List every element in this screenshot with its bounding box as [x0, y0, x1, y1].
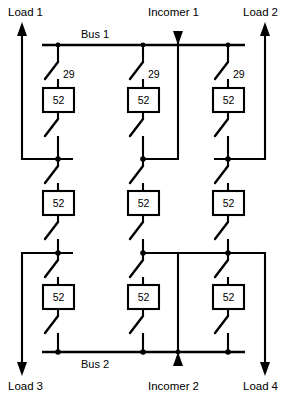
center-mid-breaker-52-label: 52: [138, 197, 150, 209]
load-2-label-lead: Load: [243, 6, 269, 18]
right-top-isolator-29-blade: [215, 62, 228, 79]
svg-text:Load1: Load1: [8, 6, 43, 18]
center-top-isolator-lower-blade: [130, 119, 143, 136]
center-isolator-29-label: 29: [148, 68, 160, 80]
center-bot-isolator-upper-blade: [130, 260, 143, 277]
load-4-arrow-icon: [260, 362, 270, 376]
right-top-breaker-52-label: 52: [223, 94, 235, 106]
center-mid-isolator-upper-blade: [130, 166, 143, 183]
left-column-middle: 52: [43, 159, 74, 256]
left-mid-isolator-lower-blade: [45, 222, 58, 239]
svg-text:Incomer1: Incomer1: [148, 6, 199, 18]
bus-1-label-lead: Bus: [81, 28, 100, 40]
bus-2-label: Bus2: [81, 358, 109, 370]
load-1-label: Load1: [8, 6, 43, 18]
right-bot-isolator-upper-blade: [215, 260, 228, 277]
bus-1-label: Bus1: [81, 28, 109, 40]
left-top-isolator-29-blade: [45, 62, 58, 79]
bus-2-label-lead: Bus: [81, 358, 100, 370]
svg-text:Incomer2: Incomer2: [148, 380, 199, 392]
load-4-label-lead: Load: [243, 380, 269, 392]
left-mid-breaker-52-label: 52: [53, 197, 65, 209]
load-1-label-lead: Load: [8, 6, 34, 18]
right-bot-isolator-lower-blade: [215, 316, 228, 333]
center-bot-isolator-lower-blade: [130, 316, 143, 333]
load-3-arrow-icon: [17, 362, 27, 376]
bus-2-label-num: 2: [103, 358, 109, 370]
load-3-feeder: [17, 252, 73, 376]
load-4-label-num: 4: [272, 380, 279, 392]
svg-text:Load3: Load3: [8, 380, 43, 392]
incomer-1-label-num: 1: [193, 6, 199, 18]
left-column-top: 52: [43, 45, 74, 162]
incomer-1-label-lead: Incomer: [148, 6, 190, 18]
left-column-bottom: 52: [43, 253, 74, 355]
load-2-label: Load2: [243, 6, 278, 18]
load-1-label-num: 1: [37, 6, 43, 18]
right-bot-breaker-52-label: 52: [223, 291, 235, 303]
load-1-arrow-icon: [17, 22, 27, 36]
right-mid-breaker-52-label: 52: [223, 197, 235, 209]
left-top-isolator-lower-blade: [45, 119, 58, 136]
left-bot-breaker-52-label: 52: [53, 291, 65, 303]
load-3-label-lead: Load: [8, 380, 34, 392]
center-column-middle: 52: [128, 159, 159, 256]
left-bot-isolator-lower-blade: [45, 316, 58, 333]
svg-text:Bus2: Bus2: [81, 358, 109, 370]
svg-text:Bus1: Bus1: [81, 28, 109, 40]
incomer-2-feeder: [173, 253, 183, 366]
center-top-breaker-52-label: 52: [138, 94, 150, 106]
load-4-feeder: [214, 252, 270, 376]
bus-1-label-num: 1: [103, 28, 109, 40]
incomer-2-label-lead: Incomer: [148, 380, 190, 392]
right-column-top: 52: [213, 45, 244, 162]
load-2-label-num: 2: [272, 6, 278, 18]
svg-text:Load4: Load4: [243, 380, 279, 392]
bus-2-node-incomer: [176, 350, 181, 355]
left-bot-isolator-upper-blade: [45, 260, 58, 277]
right-isolator-29-label: 29: [233, 68, 245, 80]
left-mid-isolator-upper-blade: [45, 166, 58, 183]
load-2-arrow-icon: [260, 22, 270, 36]
center-mid-isolator-lower-blade: [130, 222, 143, 239]
right-column-bottom: 52: [213, 253, 244, 355]
left-top-breaker-52-label: 52: [53, 94, 65, 106]
center-column-top: 52: [128, 45, 159, 162]
right-mid-isolator-lower-blade: [215, 222, 228, 239]
center-top-isolator-29-blade: [130, 62, 143, 79]
incomer-2-label-num: 2: [193, 380, 199, 392]
center-bot-breaker-52-label: 52: [138, 291, 150, 303]
incomer-2-label: Incomer2: [148, 380, 199, 392]
load-4-label: Load4: [243, 380, 279, 392]
load-3-label-num: 3: [37, 380, 43, 392]
diagram-canvas: 52 52 52: [0, 0, 287, 398]
right-top-isolator-lower-blade: [215, 119, 228, 136]
right-column-middle: 52: [213, 159, 244, 256]
incomer-1-label: Incomer1: [148, 6, 199, 18]
single-line-diagram: 52 52 52: [0, 0, 287, 398]
left-isolator-29-label: 29: [63, 68, 75, 80]
center-column-bottom: 52: [128, 253, 159, 355]
svg-text:Load2: Load2: [243, 6, 278, 18]
load-3-label: Load3: [8, 380, 43, 392]
right-mid-isolator-upper-blade: [215, 166, 228, 183]
